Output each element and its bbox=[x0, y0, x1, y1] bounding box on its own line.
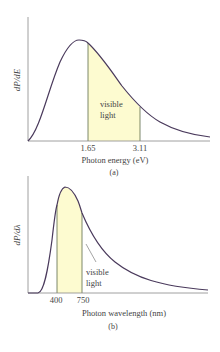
band-label-b-2: light bbox=[86, 278, 102, 288]
band-label-b-1: visible bbox=[86, 267, 109, 277]
caption-b: (b) bbox=[108, 322, 118, 331]
band-label-a-1: visible bbox=[100, 99, 123, 109]
visible-band-a bbox=[88, 43, 140, 141]
x-tick-a-2: 3.11 bbox=[133, 143, 148, 153]
figure: dP/dE visible light 1.65 3.11 Photon ene… bbox=[0, 0, 220, 352]
caption-a: (a) bbox=[110, 168, 119, 177]
x-tick-b-1: 400 bbox=[50, 295, 63, 305]
curve-b bbox=[28, 187, 208, 293]
band-pointer-b bbox=[86, 244, 96, 262]
chart-b: dP/dλ visible light 400 750 Photon wavel… bbox=[12, 176, 208, 331]
x-label-b: Photon wavelength (nm) bbox=[82, 308, 166, 318]
x-label-a: Photon energy (eV) bbox=[82, 155, 149, 165]
y-label-b: dP/dλ bbox=[12, 224, 22, 245]
chart-a: dP/dE visible light 1.65 3.11 Photon ene… bbox=[12, 17, 210, 177]
y-label-a: dP/dE bbox=[12, 68, 22, 91]
x-tick-a-1: 1.65 bbox=[81, 143, 96, 153]
x-tick-b-2: 750 bbox=[77, 295, 90, 305]
band-label-a-2: light bbox=[100, 110, 116, 120]
